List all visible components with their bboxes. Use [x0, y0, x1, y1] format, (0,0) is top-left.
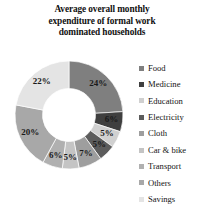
- legend-item-label: Others: [148, 179, 171, 188]
- donut-svg: 24%6%5%5%7%5%6%20%22%: [14, 60, 124, 170]
- chart-title-line-3: dominated households: [14, 27, 190, 39]
- legend-item[interactable]: Electricity: [139, 109, 203, 125]
- legend-swatch-icon: [139, 66, 144, 71]
- legend-item[interactable]: Savings: [139, 191, 203, 207]
- legend-item-label: Medicine: [148, 80, 180, 89]
- legend-swatch-icon: [139, 115, 144, 120]
- pie-slice-label: 5%: [100, 128, 114, 138]
- legend-item[interactable]: Medicine: [139, 76, 203, 92]
- pie-slice-label: 7%: [79, 148, 93, 158]
- legend-item[interactable]: Transport: [139, 158, 203, 174]
- pie-slice-label: 20%: [21, 127, 39, 137]
- legend-swatch-icon: [139, 98, 144, 103]
- legend-item[interactable]: Education: [139, 93, 203, 109]
- legend-swatch-icon: [139, 131, 144, 136]
- chart-title: Average overall monthly expenditure of f…: [14, 4, 190, 39]
- legend-item-label: Education: [148, 97, 183, 106]
- pie-slice-label: 6%: [105, 114, 119, 124]
- pie-slice-label: 6%: [49, 150, 63, 160]
- legend-swatch-icon: [139, 164, 144, 169]
- chart-title-line-1: Average overall monthly: [14, 4, 190, 16]
- legend-item[interactable]: Cloth: [139, 126, 203, 142]
- legend-item-label: Electricity: [148, 113, 184, 122]
- legend-swatch-icon: [139, 197, 144, 202]
- legend-item-label: Car & bike: [148, 146, 186, 155]
- legend-item-label: Transport: [148, 162, 181, 171]
- pie-slice-label: 22%: [33, 76, 51, 86]
- pie-slice-label: 5%: [92, 139, 106, 149]
- legend-item-label: Cloth: [148, 129, 167, 138]
- legend-swatch-icon: [139, 148, 144, 153]
- donut-plot-area: 24%6%5%5%7%5%6%20%22%: [14, 60, 124, 170]
- legend-item-label: Food: [148, 64, 166, 73]
- legend-item[interactable]: Food: [139, 60, 203, 76]
- legend-swatch-icon: [139, 82, 144, 87]
- pie-chart-figure: Average overall monthly expenditure of f…: [0, 0, 203, 213]
- legend-item[interactable]: Others: [139, 175, 203, 191]
- legend-item[interactable]: Car & bike: [139, 142, 203, 158]
- pie-slice-label: 5%: [64, 152, 78, 162]
- legend-item-label: Savings: [148, 195, 175, 204]
- chart-title-line-2: expenditure of formal work: [14, 16, 190, 28]
- chart-legend: FoodMedicineEducationElectricityClothCar…: [139, 60, 203, 208]
- pie-slice-label: 24%: [89, 78, 107, 88]
- legend-swatch-icon: [139, 180, 144, 185]
